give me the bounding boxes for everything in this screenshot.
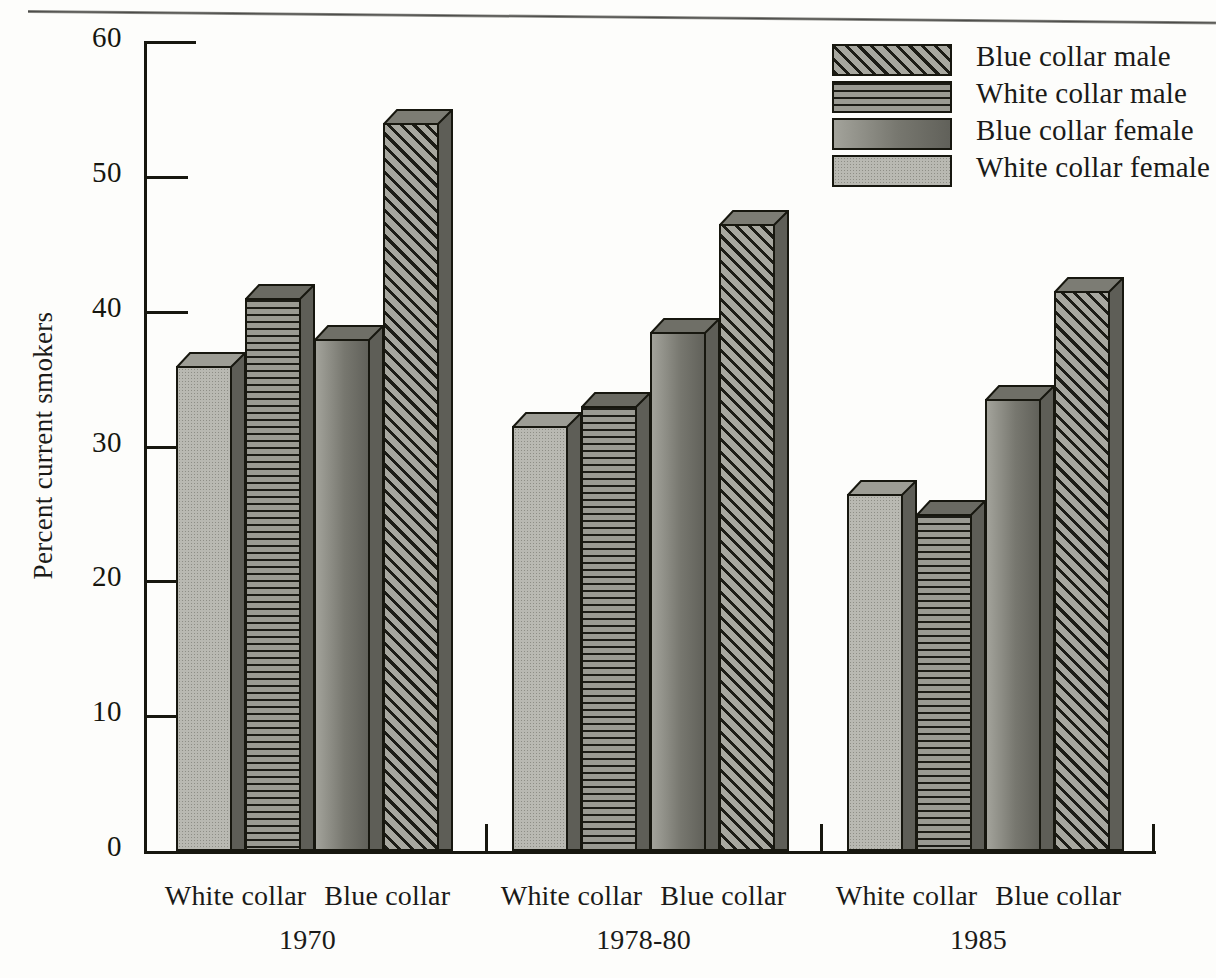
bar-side: [706, 318, 720, 851]
legend-item-bcf[interactable]: Blue collar female: [832, 118, 1216, 154]
bar-wcf-1978-80: [512, 426, 568, 851]
bar-top: [847, 480, 917, 494]
legend-swatch-bcf-icon: [832, 118, 952, 150]
bar-face: [512, 426, 568, 851]
bar-top: [512, 412, 582, 426]
bar-side: [370, 325, 384, 851]
bar-face: [916, 514, 972, 851]
x-group-1970: White collarBlue collar1970: [118, 880, 498, 956]
x-label-year: 1985: [789, 924, 1169, 956]
bar-face: [383, 123, 439, 851]
legend-label: Blue collar male: [976, 40, 1171, 73]
bar-bcm-1970: [383, 123, 439, 851]
bar-top: [1054, 277, 1124, 291]
legend-item-wcm[interactable]: White collar male: [832, 81, 1216, 117]
x-label-blue-collar: Blue collar: [995, 880, 1121, 912]
bar-face: [985, 399, 1041, 851]
x-group-1985: White collarBlue collar1985: [789, 880, 1169, 956]
x-label-white-collar: White collar: [836, 880, 978, 912]
bar-top: [916, 500, 986, 514]
x-label-blue-collar: Blue collar: [660, 880, 786, 912]
bar-bcf-1970: [314, 339, 370, 851]
bar-top: [985, 385, 1055, 399]
x-label-white-collar: White collar: [165, 880, 307, 912]
bar-bcf-1985: [985, 399, 1041, 851]
bar-side: [775, 210, 789, 851]
bar-top: [581, 392, 651, 406]
legend-swatch-bcm-icon: [832, 44, 952, 76]
x-label-white-collar: White collar: [501, 880, 643, 912]
bar-bcm-1978-80: [719, 224, 775, 851]
bar-side: [1041, 385, 1055, 851]
bar-side: [301, 284, 315, 851]
x-group-1978-80: White collarBlue collar1978-80: [454, 880, 834, 956]
bar-top: [383, 109, 453, 123]
bar-face: [314, 339, 370, 851]
legend-item-bcm[interactable]: Blue collar male: [832, 44, 1216, 80]
bar-top: [245, 284, 315, 298]
bar-wcm-1978-80: [581, 406, 637, 851]
x-label-blue-collar: Blue collar: [324, 880, 450, 912]
bar-face: [176, 366, 232, 851]
bar-top: [719, 210, 789, 224]
bar-wcm-1970: [245, 298, 301, 851]
legend-swatch-wcf-icon: [832, 155, 952, 187]
bar-top: [176, 352, 246, 366]
bar-face: [719, 224, 775, 851]
bar-wcm-1985: [916, 514, 972, 851]
legend-item-wcf[interactable]: White collar female: [832, 155, 1216, 191]
x-label-year: 1970: [118, 924, 498, 956]
chart-figure: 0102030405060 Percent current smokers Bl…: [0, 0, 1216, 978]
bar-bcm-1985: [1054, 291, 1110, 851]
bar-side: [568, 412, 582, 851]
bar-side: [1110, 277, 1124, 851]
bar-face: [245, 298, 301, 851]
bar-side: [637, 392, 651, 851]
bar-side: [903, 480, 917, 851]
legend-label: White collar female: [976, 151, 1210, 184]
bar-wcf-1970: [176, 366, 232, 851]
bar-top: [650, 318, 720, 332]
bar-face: [1054, 291, 1110, 851]
x-label-year: 1978-80: [454, 924, 834, 956]
legend-swatch-wcm-icon: [832, 81, 952, 113]
bar-face: [650, 332, 706, 851]
legend-label: Blue collar female: [976, 114, 1194, 147]
bar-side: [972, 500, 986, 851]
bar-bcf-1978-80: [650, 332, 706, 851]
bar-top: [314, 325, 384, 339]
bar-face: [847, 494, 903, 851]
bar-wcf-1985: [847, 494, 903, 851]
bar-side: [439, 109, 453, 851]
bar-side: [232, 352, 246, 851]
bar-face: [581, 406, 637, 851]
legend-label: White collar male: [976, 77, 1187, 110]
